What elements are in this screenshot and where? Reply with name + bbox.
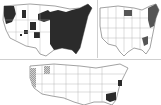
map-panel-bottom	[24, 62, 136, 105]
us-map-sparse-shading	[98, 0, 161, 58]
us-map-bottom	[24, 62, 136, 105]
us-map-dense-shading	[0, 0, 96, 58]
panel-divider-horizontal	[0, 59, 161, 60]
map-panel-top-right	[98, 0, 161, 58]
map-panel-top-left	[0, 0, 96, 58]
